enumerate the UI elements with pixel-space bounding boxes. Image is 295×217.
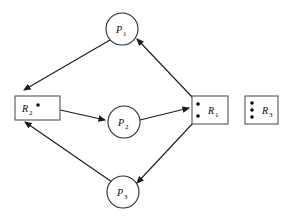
resource-sub-r1: 1: [215, 111, 219, 119]
diagram-canvas: R 2 R 1 R 3 P 1 P: [0, 0, 295, 217]
instance-dot-r2-1: [36, 103, 40, 107]
process-label-p3: P: [116, 187, 123, 198]
process-label-p2: P: [117, 117, 124, 128]
instance-dot-r3-1: [250, 101, 254, 105]
resource-allocation-graph: R 2 R 1 R 3 P 1 P: [0, 0, 295, 217]
edge-p1-to-r2: [24, 40, 110, 90]
process-label-p1: P: [115, 24, 122, 35]
resource-label-r2: R: [21, 103, 28, 114]
instance-dot-r1-1: [196, 102, 200, 106]
edge-r1-to-p3: [137, 122, 194, 183]
resource-label-r1: R: [207, 105, 214, 116]
edge-p3-to-r2: [25, 122, 112, 182]
resource-sub-r2: 2: [29, 109, 33, 117]
resource-node-r3[interactable]: R 3: [245, 96, 278, 124]
process-sub-p2: 2: [125, 123, 129, 131]
process-sub-p1: 1: [123, 30, 127, 38]
resource-node-r1[interactable]: R 1: [192, 96, 228, 124]
instance-dot-r1-2: [196, 114, 200, 118]
process-node-p1[interactable]: P 1: [106, 13, 138, 45]
edge-p2-to-r1: [140, 108, 189, 120]
resource-sub-r3: 3: [269, 111, 273, 119]
process-node-p3[interactable]: P 3: [107, 176, 139, 208]
edge-r1-to-p1: [137, 39, 194, 99]
process-node-p2[interactable]: P 2: [108, 106, 140, 138]
resource-label-r3: R: [261, 105, 268, 116]
instance-dot-r3-3: [250, 115, 254, 119]
instance-dot-r3-2: [250, 108, 254, 112]
resource-node-r2[interactable]: R 2: [15, 96, 60, 120]
process-sub-p3: 3: [124, 193, 128, 201]
